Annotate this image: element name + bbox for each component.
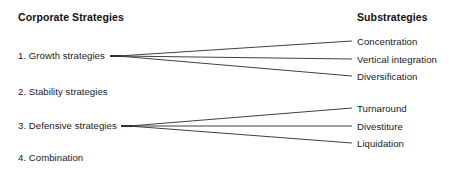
substrategy-item-vertical-integration: Vertical integration [357,54,437,65]
page-title-substrategies: Substrategies [357,11,428,23]
substrategy-item-turnaround: Turnaround [357,103,407,114]
substrategy-item-divestiture: Divestiture [357,121,403,132]
page-title-corporate-strategies: Corporate Strategies [18,11,124,23]
strategy-item-defensive: 3. Defensive strategies [18,120,117,131]
substrategy-item-concentration: Concentration [357,36,417,47]
strategy-item-combination: 4. Combination [18,152,83,163]
connector-defensive-to-turnaround [129,108,352,126]
connector-defensive-to-liquidation [129,126,352,143]
strategy-item-growth: 1. Growth strategies [18,50,105,61]
substrategy-item-liquidation: Liquidation [357,138,404,149]
connector-growth-to-vertical-integration [118,56,352,59]
diagram-canvas: Corporate Strategies Substrategies 1. Gr… [0,0,450,173]
strategy-item-stability: 2. Stability strategies [18,86,108,97]
connector-growth-to-concentration [118,41,352,56]
substrategy-item-diversification: Diversification [357,71,417,82]
connector-growth-to-diversification [118,56,352,76]
